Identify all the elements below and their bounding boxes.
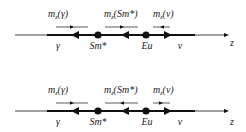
small-arrow-left-icon [160,25,164,28]
point-label-gamma: γ [56,41,60,51]
eu-point-dot [142,107,149,114]
axis-arrow-icon [224,109,229,113]
sm-point-dot [94,31,101,38]
point-label-v: v [178,117,182,127]
eu-point-dot [142,31,149,38]
sm-point-dot [94,107,101,114]
moment-label-sm: mz(Sm*) [104,85,137,96]
small-arrow-right-icon [159,101,163,104]
moment-label-v: mz(v) [153,9,174,20]
axis-label-z: z [230,38,234,48]
arrow-left-icon [71,107,79,115]
axis-label-z: z [230,117,234,127]
point-label-gamma: γ [56,117,60,127]
small-arrow-right-icon [70,25,74,28]
arrow-left-icon [121,107,129,115]
point-label-eu: Eu [141,41,152,51]
small-arrow-left-icon [120,101,124,104]
moment-label-gamma: mz(γ) [48,9,68,20]
moment-label-gamma: mz(γ) [48,85,68,96]
arrow-left-icon [71,31,79,39]
axis-arrow-icon [224,33,229,37]
arrow-left-icon [121,31,129,39]
point-label-eu: Eu [141,117,152,127]
moment-label-sm: mz(Sm*) [104,9,137,20]
diagram-top: mz(γ) mz(Sm*) mz(v) γ Sm* Eu v z [0,0,246,66]
small-arrow-right-icon [70,101,74,104]
arrow-right-icon [164,31,172,39]
diagram-bottom: mz(γ) mz(Sm*) mz(v) γ Sm* Eu v z [0,76,246,132]
point-label-sm: Sm* [89,117,106,127]
small-arrow-right-icon [120,25,124,28]
point-label-v: v [178,41,182,51]
point-label-sm: Sm* [89,41,106,51]
moment-label-v: mz(v) [153,85,174,96]
arrow-right-icon [164,107,172,115]
